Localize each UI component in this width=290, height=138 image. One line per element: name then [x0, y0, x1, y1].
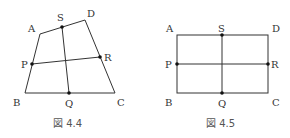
label-r: R — [104, 52, 112, 63]
point-p — [30, 62, 34, 66]
label-s: S — [218, 23, 225, 34]
caption-fig-4-4: 図 4.4 — [53, 118, 82, 129]
point-q — [220, 91, 224, 95]
label-r: R — [271, 59, 279, 70]
figure-4-4: A S D P R B Q C 図 4.4 — [13, 8, 125, 129]
point-r — [98, 55, 102, 59]
figure-canvas: A S D P R B Q C 図 4.4 A S D P R B Q C 図 … — [0, 0, 290, 138]
point-s — [60, 25, 64, 29]
label-c: C — [272, 97, 280, 108]
label-d: D — [272, 23, 280, 34]
label-a: A — [27, 23, 36, 34]
label-s: S — [57, 12, 64, 23]
label-q: Q — [218, 98, 226, 109]
label-p: P — [21, 59, 28, 70]
label-b: B — [13, 97, 20, 108]
point-r — [266, 62, 270, 66]
point-p — [175, 62, 179, 66]
label-p: P — [165, 59, 172, 70]
label-a: A — [165, 23, 174, 34]
label-b: B — [165, 97, 172, 108]
point-q — [67, 91, 71, 95]
label-d: D — [87, 8, 95, 19]
caption-fig-4-5: 図 4.5 — [206, 118, 235, 129]
label-q: Q — [65, 98, 73, 109]
figure-4-5: A S D P R B Q C 図 4.5 — [165, 23, 280, 129]
label-c: C — [117, 97, 125, 108]
